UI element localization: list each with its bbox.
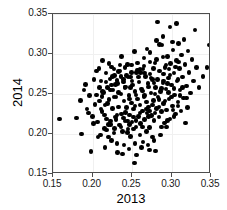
data-point [119, 74, 124, 79]
data-point [138, 111, 143, 116]
data-point [95, 120, 100, 125]
data-point [201, 74, 206, 79]
data-point [116, 69, 121, 74]
data-point [163, 99, 168, 104]
data-point [155, 20, 160, 25]
data-point [135, 97, 140, 102]
data-point [190, 57, 195, 62]
data-point [98, 133, 103, 138]
data-point [127, 122, 132, 127]
data-point [134, 153, 139, 158]
data-point [100, 94, 105, 99]
data-point [207, 43, 210, 48]
data-point [120, 152, 125, 157]
data-point [152, 138, 157, 143]
data-point [141, 140, 146, 145]
data-point [180, 75, 185, 80]
data-point [164, 108, 169, 113]
data-point [161, 72, 166, 77]
data-point [144, 107, 149, 112]
x-axis-tick [171, 173, 172, 177]
data-point [177, 66, 182, 71]
data-point [140, 125, 145, 130]
data-point [151, 66, 156, 71]
data-point [116, 90, 121, 95]
data-point [176, 41, 181, 46]
data-point [142, 56, 147, 61]
data-point [114, 117, 119, 122]
data-point [122, 143, 127, 148]
data-point [146, 143, 151, 148]
data-point [115, 113, 120, 118]
scatter-plot-figure: 0.150.200.250.300.35 0.150.200.250.300.3… [0, 0, 227, 210]
data-point [127, 97, 132, 102]
data-point [113, 82, 118, 87]
data-point [147, 148, 152, 153]
data-point [165, 54, 170, 59]
data-point [115, 141, 120, 146]
x-axis-tick [210, 173, 211, 177]
data-point [152, 118, 157, 123]
data-point [142, 64, 147, 69]
data-point [142, 93, 147, 98]
data-point [139, 145, 144, 150]
data-point [94, 93, 99, 98]
data-point [197, 85, 202, 90]
data-point [123, 65, 128, 70]
data-point [121, 116, 126, 121]
data-point [166, 90, 171, 95]
data-point [164, 125, 169, 130]
data-point [159, 86, 164, 91]
data-point [146, 114, 151, 119]
data-point [154, 57, 159, 62]
data-point [172, 71, 177, 76]
y-axis-tick [48, 53, 52, 54]
data-point [169, 95, 174, 100]
data-point [148, 60, 153, 65]
data-point [109, 138, 114, 143]
data-point [104, 71, 109, 76]
gridline-horizontal [53, 54, 209, 55]
data-point [132, 161, 137, 166]
data-point [184, 96, 189, 101]
data-point [186, 49, 191, 54]
data-point [165, 118, 170, 123]
data-point [194, 65, 199, 70]
data-point [172, 86, 177, 91]
data-point [183, 121, 188, 126]
data-point [183, 62, 188, 67]
data-point [110, 74, 115, 79]
data-point [123, 110, 128, 115]
data-point [193, 28, 198, 33]
data-point [87, 93, 92, 98]
data-point [102, 113, 107, 118]
data-point [82, 88, 87, 93]
data-point [146, 85, 151, 90]
data-point [103, 145, 108, 150]
data-point [121, 80, 126, 85]
x-axis-tick [131, 173, 132, 177]
data-point [100, 89, 105, 94]
x-axis-title: 2013 [52, 191, 210, 206]
data-point [112, 126, 117, 131]
data-point [176, 60, 181, 65]
data-point [176, 77, 181, 82]
data-point [118, 63, 123, 68]
data-point [134, 118, 139, 123]
data-point [125, 130, 130, 135]
data-point [170, 40, 175, 45]
data-point [179, 109, 184, 114]
data-point [138, 103, 143, 108]
data-point [123, 85, 128, 90]
y-axis-title: 2014 [10, 13, 25, 173]
x-axis-tick-label: 0.25 [111, 178, 151, 189]
data-point [157, 115, 162, 120]
data-point [159, 125, 164, 130]
data-point [79, 132, 84, 137]
data-point [127, 147, 132, 152]
data-point [138, 133, 143, 138]
data-point [89, 149, 94, 154]
data-point [97, 85, 102, 90]
data-point [184, 84, 189, 89]
data-point [128, 134, 133, 139]
